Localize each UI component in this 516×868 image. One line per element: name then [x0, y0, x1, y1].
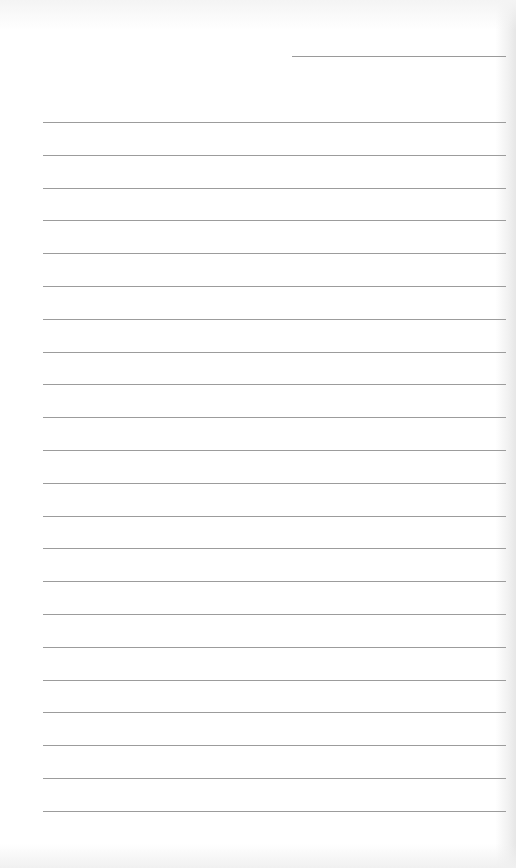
- ruled-line: [43, 680, 506, 681]
- ruled-line: [43, 745, 506, 746]
- top-edge-shadow: [0, 0, 516, 30]
- ruled-line: [43, 811, 506, 812]
- ruled-line: [43, 647, 506, 648]
- ruled-line: [43, 188, 506, 189]
- date-line: [292, 56, 506, 57]
- ruled-line: [43, 778, 506, 779]
- ruled-line: [43, 253, 506, 254]
- ruled-line: [43, 384, 506, 385]
- lined-paper-page: [0, 0, 516, 868]
- ruled-line: [43, 614, 506, 615]
- ruled-line: [43, 155, 506, 156]
- ruled-line: [43, 352, 506, 353]
- ruled-line: [43, 286, 506, 287]
- ruled-line: [43, 417, 506, 418]
- bottom-edge-shadow: [0, 844, 516, 868]
- ruled-line: [43, 319, 506, 320]
- ruled-line: [43, 450, 506, 451]
- ruled-line: [43, 220, 506, 221]
- ruled-line: [43, 548, 506, 549]
- ruled-line: [43, 712, 506, 713]
- ruled-line: [43, 122, 506, 123]
- ruled-line: [43, 581, 506, 582]
- ruled-line: [43, 516, 506, 517]
- ruled-line: [43, 483, 506, 484]
